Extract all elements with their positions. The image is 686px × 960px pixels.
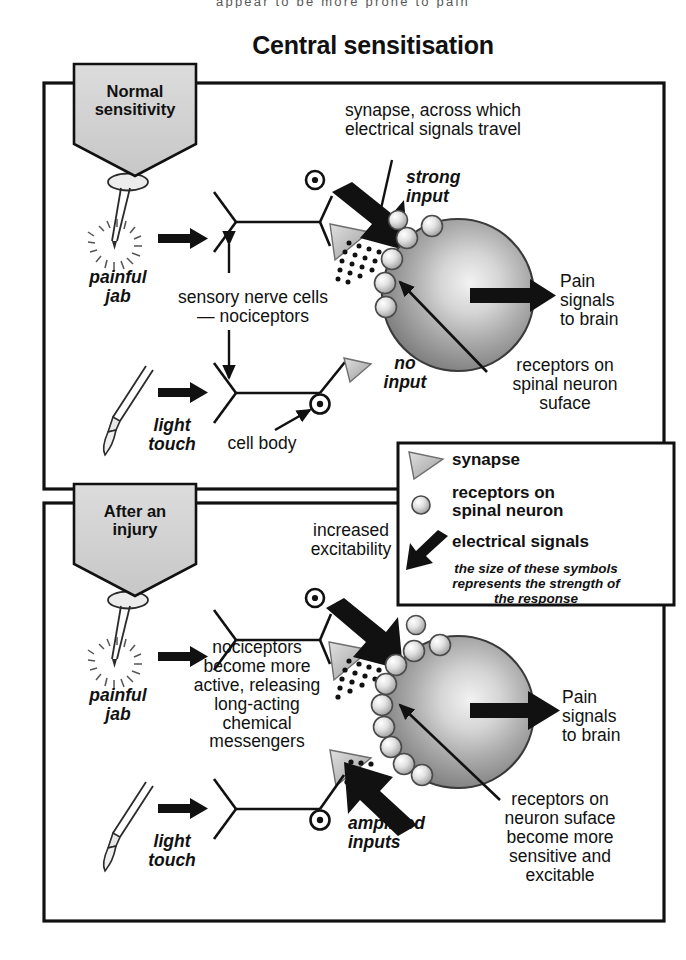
legend-caption-line1: the size of these symbols [404,561,668,576]
receptors-normal-line2: spinal neuron [470,375,660,394]
synapse-note-line1: synapse, across which [302,101,564,120]
no-input-line2: input [365,373,445,392]
nociceptor-light-normal [214,362,345,423]
banner-label-injury-line1: After an [74,502,196,520]
light-touch-injury-line2: touch [122,851,222,870]
pain-line2: signals [560,291,682,310]
pain-injury-line3: to brain [562,726,684,745]
cell-body-icon-normal-top [306,171,324,189]
legend-receptors-line2: spinal neuron [452,502,662,520]
nociceptor-activity-line6: messengers [150,732,364,751]
nerve-cells-line2: — nociceptors [148,307,358,326]
pain-signals-label-injury: Pain signals to brain [562,688,684,745]
painful-jab-line1: painful [64,268,172,287]
nociceptor-activity-line2: become more [150,657,364,676]
legend-receptors-line1: receptors on [452,484,662,502]
light-touch-line1: light [122,416,222,435]
pain-line3: to brain [560,310,682,329]
cell-body-icon-injury-bottom [311,811,330,830]
nociceptor-activity-label: nociceptors become more active, releasin… [150,638,364,751]
no-input-label: no input [365,354,445,392]
receptors-injury-line2: neuron suface [456,809,664,828]
stimulus-arrow-painful-normal [158,228,208,249]
nociceptor-activity-line1: nociceptors [150,638,364,657]
cell-body-icon-normal-bottom [311,395,330,414]
diagram-canvas: appear to be more prone to pain [0,0,686,960]
nociceptor-activity-line3: active, releasing [150,676,364,695]
stimulus-arrow-light-injury [158,798,208,819]
nociceptor-activity-line4: long-acting [150,695,364,714]
increased-excitability-label: increased excitability [262,521,440,559]
no-input-line1: no [365,354,445,373]
cell-body-callout-arrow-normal [275,410,310,430]
pin-icon-injury [88,592,148,690]
legend-caption-line3: the response [404,591,668,606]
banner-label-normal-line1: Normal [74,82,196,100]
banner-shape-normal [74,64,196,176]
nociceptor-activity-line5: chemical [150,714,364,733]
legend-label-electrical: electrical signals [452,533,672,551]
increased-line2: excitability [262,540,440,559]
pain-line1: Pain [560,272,682,291]
strong-input-label: strong input [406,168,516,206]
page-title: Central sensitisation [183,32,563,59]
pin-icon-normal [88,174,148,272]
banner-label-injury: After an injury [74,502,196,539]
synapse-note-normal: synapse, across which electrical signals… [302,101,564,139]
legend-caption-line2: represents the strength of [404,576,668,591]
receptors-label-normal: receptors on spinal neuron suface [470,356,660,413]
increased-line1: increased [262,521,440,540]
receptors-injury-line1: receptors on [456,790,664,809]
receptors-injury-line5: excitable [456,866,664,885]
banner-shape-injury [74,484,196,596]
legend-receptor-circle-icon [412,496,430,514]
strong-input-line2: input [406,187,516,206]
cell-body-label: cell body [198,434,326,453]
receptors-injury-line3: become more [456,828,664,847]
synapse-note-line2: electrical signals travel [302,120,564,139]
banner-label-injury-line2: injury [74,520,196,538]
banner-label-normal: Normal sensitivity [74,82,196,119]
pain-injury-line2: signals [562,707,684,726]
receptors-label-injury: receptors on neuron suface become more s… [456,790,664,884]
receptors-normal-line1: receptors on [470,356,660,375]
legend-caption: the size of these symbols represents the… [404,561,668,606]
light-touch-injury-line1: light [122,832,222,851]
pain-signals-label-normal: Pain signals to brain [560,272,682,329]
legend-label-synapse: synapse [452,451,652,469]
nerve-cells-line1: sensory nerve cells [148,288,358,307]
pain-injury-line1: Pain [562,688,684,707]
nociceptor-painful-normal [214,192,332,252]
receptors-normal-line3: suface [470,394,660,413]
cell-body-icon-injury-top [306,589,324,607]
light-touch-label-injury: light touch [122,832,222,870]
receptors-injury-line4: sensitive and [456,847,664,866]
banner-label-normal-line2: sensitivity [74,100,196,118]
strong-input-line1: strong [406,168,516,187]
legend-label-receptors: receptors on spinal neuron [452,484,662,520]
sensory-nerve-cells-label: sensory nerve cells — nociceptors [148,288,358,326]
stimulus-arrow-light-normal [158,382,208,403]
